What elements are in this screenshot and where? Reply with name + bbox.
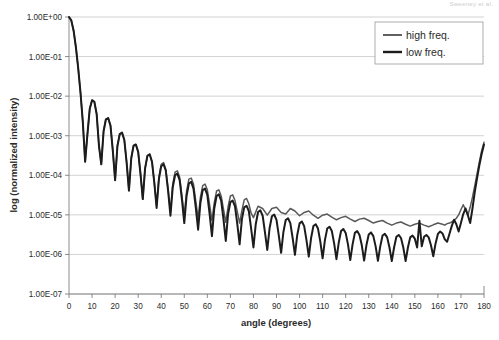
y-tick-label: 1.00E-04 [29, 171, 63, 180]
chart-legend: high freq.low freq. [375, 22, 483, 64]
y-tick-label: 1.00E+00 [27, 13, 63, 22]
x-tick-label: 70 [226, 302, 236, 311]
y-tick-label: 1.00E-01 [29, 53, 63, 62]
x-tick-label: 130 [362, 302, 376, 311]
y-axis-title: log (normalized intensity) [8, 97, 19, 212]
page-header-note: Sweeney et al. [449, 0, 493, 7]
legend-label-high-freq: high freq. [406, 29, 450, 41]
x-axis-title: angle (degrees) [241, 317, 311, 328]
y-axis-tick-labels: 1.00E+001.00E-011.00E-021.00E-031.00E-04… [27, 13, 63, 299]
y-tick-label: 1.00E-05 [29, 211, 63, 220]
y-tick-label: 1.00E-07 [29, 290, 63, 299]
x-tick-label: 140 [385, 302, 399, 311]
x-tick-label: 180 [477, 302, 491, 311]
x-tick-label: 60 [203, 302, 213, 311]
chart-figure: Sweeney et al. 1.00E+001.00E-011.00E-021… [0, 0, 499, 340]
x-tick-label: 150 [408, 302, 422, 311]
y-tick-label: 1.00E-02 [29, 92, 63, 101]
x-axis-tick-marks [69, 294, 484, 298]
x-tick-label: 40 [157, 302, 167, 311]
x-tick-label: 0 [67, 302, 72, 311]
x-tick-label: 30 [134, 302, 144, 311]
x-tick-label: 80 [249, 302, 259, 311]
x-tick-label: 170 [454, 302, 468, 311]
x-axis-tick-labels: 0102030405060708090100110120130140150160… [67, 302, 492, 311]
intensity-vs-angle-chart: 1.00E+001.00E-011.00E-021.00E-031.00E-04… [0, 0, 499, 340]
x-tick-label: 10 [88, 302, 98, 311]
y-tick-label: 1.00E-06 [29, 250, 63, 259]
x-tick-label: 50 [180, 302, 190, 311]
x-tick-label: 160 [431, 302, 445, 311]
x-tick-label: 120 [339, 302, 353, 311]
x-tick-label: 90 [272, 302, 282, 311]
y-tick-label: 1.00E-03 [29, 132, 63, 141]
x-tick-label: 110 [316, 302, 329, 311]
x-tick-label: 20 [111, 302, 121, 311]
legend-label-low-freq: low freq. [406, 46, 446, 58]
x-tick-label: 100 [293, 302, 307, 311]
